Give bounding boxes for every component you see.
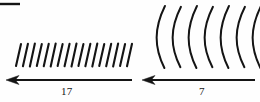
left-arrow bbox=[6, 76, 132, 85]
hatch-mark bbox=[113, 44, 118, 67]
arc-mark bbox=[237, 7, 245, 67]
right-group-count-label: 7 bbox=[199, 86, 205, 97]
hatch-mark bbox=[127, 44, 132, 67]
figure-vector-layer bbox=[0, 0, 260, 102]
left-hatch-mark-group bbox=[16, 44, 132, 67]
left-group-count-label: 17 bbox=[61, 86, 72, 97]
hatch-mark bbox=[30, 44, 35, 67]
hatch-mark bbox=[85, 44, 90, 67]
arc-mark bbox=[205, 7, 213, 67]
arc-mark bbox=[253, 6, 260, 68]
hatch-mark bbox=[16, 44, 21, 66]
right-arc-mark-group bbox=[157, 6, 260, 68]
figure-canvas: 17 7 bbox=[0, 0, 260, 102]
arc-mark bbox=[221, 6, 229, 68]
hatch-mark bbox=[37, 44, 42, 66]
hatch-mark bbox=[23, 44, 28, 67]
hatch-mark bbox=[120, 44, 125, 66]
arc-mark bbox=[157, 6, 165, 68]
hatch-mark bbox=[78, 44, 83, 66]
hatch-mark bbox=[106, 44, 111, 67]
hatch-mark bbox=[99, 44, 104, 66]
hatch-mark bbox=[92, 44, 97, 67]
hatch-mark bbox=[44, 44, 49, 67]
hatch-mark bbox=[65, 44, 70, 67]
hatch-mark bbox=[51, 44, 56, 67]
hatch-mark bbox=[72, 44, 77, 67]
arc-mark bbox=[173, 7, 181, 67]
hatch-mark bbox=[58, 44, 63, 66]
arc-mark bbox=[189, 6, 197, 68]
right-arrow bbox=[142, 76, 255, 85]
